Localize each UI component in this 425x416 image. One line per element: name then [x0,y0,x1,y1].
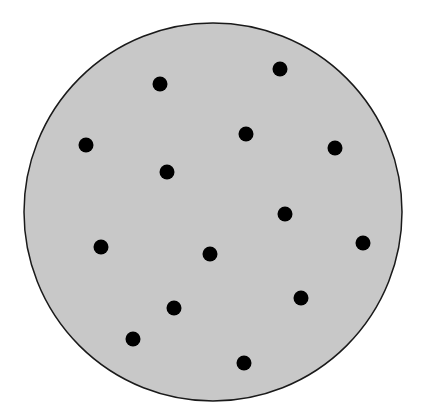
dot [273,62,288,77]
dot [79,138,94,153]
dot [203,247,218,262]
dot [294,291,309,306]
dot [239,127,254,142]
container-circle [24,23,402,401]
dot [94,240,109,255]
dot [126,332,141,347]
dot [278,207,293,222]
dot [160,165,175,180]
dot [356,236,371,251]
diagram-canvas [0,0,425,416]
dot [237,356,252,371]
dot [167,301,182,316]
dot [328,141,343,156]
dot [153,77,168,92]
